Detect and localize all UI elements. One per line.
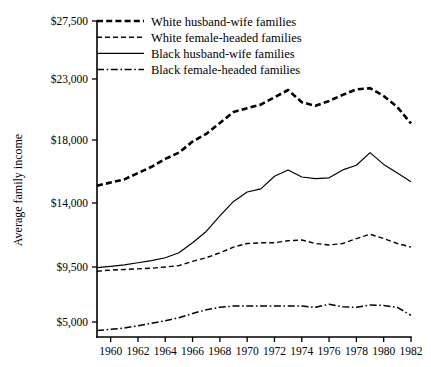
legend-label-0: White husband-wife families [151,15,296,29]
series-line-1 [97,234,411,271]
income-line-chart: $5,000$9,500$14,000$18,000$23,000$27,500… [0,0,431,367]
series-line-0 [97,88,411,186]
y-tick-label: $9,500 [56,261,88,274]
x-tick-label: 1974 [290,345,313,357]
legend-label-3: Black female-headed families [151,63,300,77]
series-lines [97,88,411,330]
x-tick-label: 1972 [263,345,286,357]
series-line-3 [97,304,411,330]
x-tick-label: 1964 [154,345,177,357]
y-tick-label: $5,000 [56,316,88,329]
y-tick-label: $14,000 [51,197,89,210]
x-tick-label: 1960 [99,345,122,357]
y-axis-tick-labels: $5,000$9,500$14,000$18,000$23,000$27,500 [51,15,89,329]
y-axis-title: Average family income [11,134,25,246]
x-tick-label: 1976 [318,345,341,357]
x-tick-label: 1980 [372,345,395,357]
x-tick-label: 1962 [126,345,149,357]
x-tick-label: 1978 [345,345,368,357]
chart-canvas: $5,000$9,500$14,000$18,000$23,000$27,500… [0,0,431,367]
y-tick-label: $23,000 [51,73,89,86]
legend-label-1: White female-headed families [151,31,302,45]
x-axis-tick-labels: 1960196219641966196819701972197419761978… [99,345,423,357]
x-tick-label: 1982 [400,345,423,357]
chart-legend: White husband-wife familiesWhite female-… [97,15,302,78]
x-tick-label: 1966 [181,345,204,357]
x-tick-label: 1970 [236,345,259,357]
legend-label-2: Black husband-wife families [151,47,295,61]
y-tick-label: $18,000 [51,134,89,147]
y-tick-label: $27,500 [51,15,89,28]
x-tick-label: 1968 [208,345,231,357]
